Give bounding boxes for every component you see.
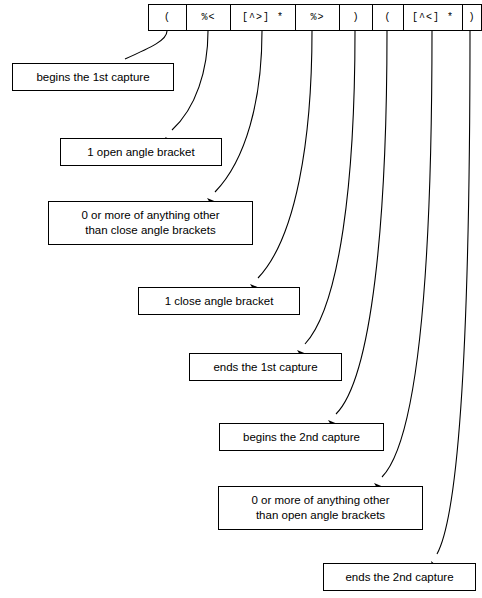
cell-percent-lt[interactable]: %< [187, 5, 231, 30]
connector-8 [428, 31, 470, 572]
connector-line [258, 31, 312, 278]
cell-close-paren-1[interactable]: ) [340, 5, 373, 30]
note-text: ends the 1st capture [213, 360, 317, 375]
connector-line [305, 31, 355, 344]
note-0-or-more-not-open: 0 or more of anything otherthan open ang… [218, 486, 423, 530]
note-text: 1 close angle bracket [165, 294, 274, 309]
note-text: 1 open angle bracket [87, 145, 194, 160]
note-1-close-angle-bracket: 1 close angle bracket [138, 287, 300, 315]
note-line-1: ends the 1st capture [213, 361, 317, 373]
note-begins-2nd-capture: begins the 2nd capture [219, 423, 384, 451]
note-line-1: begins the 2nd capture [243, 431, 360, 443]
note-0-or-more-not-close: 0 or more of anything otherthan close an… [48, 201, 253, 245]
connector-5 [295, 31, 355, 360]
note-line-2: than close angle brackets [81, 223, 219, 238]
note-text: 0 or more of anything otherthan open ang… [251, 493, 389, 523]
note-line-1: 1 close angle bracket [165, 295, 274, 307]
note-line-1: begins the 1st capture [36, 71, 149, 83]
note-line-2: than open angle brackets [251, 508, 389, 523]
cell-percent-gt[interactable]: %> [296, 5, 340, 30]
note-begins-1st-capture: begins the 1st capture [12, 63, 174, 91]
connector-line [382, 31, 432, 477]
note-line-1: 0 or more of anything other [81, 209, 219, 221]
note-line-1: 0 or more of anything other [251, 494, 389, 506]
note-line-1: ends the 2nd capture [345, 571, 453, 583]
note-text: begins the 1st capture [36, 70, 149, 85]
cell-close-paren-2[interactable]: ) [463, 5, 481, 30]
cell-not-lt-star[interactable]: [^<] * [404, 5, 463, 30]
connector-line [172, 31, 208, 130]
note-1-open-angle-bracket: 1 open angle bracket [60, 138, 222, 166]
note-text: ends the 2nd capture [345, 570, 453, 585]
note-line-1: 1 open angle bracket [87, 146, 194, 158]
connector-line [215, 31, 262, 192]
connector-line [437, 31, 470, 554]
note-ends-2nd-capture: ends the 2nd capture [323, 563, 476, 591]
connector-line [125, 31, 167, 59]
note-text: begins the 2nd capture [243, 430, 360, 445]
cell-open-paren-1[interactable]: ( [149, 5, 187, 30]
regex-token-strip: (%<[^>] *%>)([^<] *) [148, 4, 482, 31]
connector-3 [205, 31, 262, 208]
cell-open-paren-2[interactable]: ( [373, 5, 404, 30]
note-text: 0 or more of anything otherthan close an… [81, 208, 219, 238]
cell-not-gt-star[interactable]: [^>] * [231, 5, 296, 30]
connector-4 [248, 31, 312, 294]
note-ends-1st-capture: ends the 1st capture [189, 353, 342, 381]
